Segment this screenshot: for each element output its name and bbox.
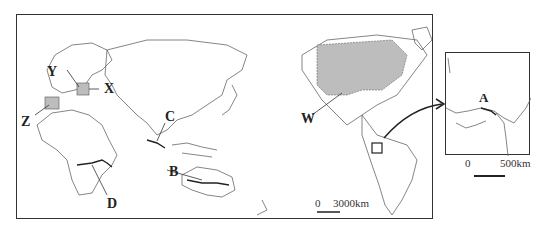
scale-zero: 0: [315, 198, 321, 209]
label-a: A: [479, 91, 488, 104]
scale-distance: 3000km: [333, 198, 369, 209]
world-map: Y X Z C D B W 0 3000km: [16, 14, 433, 219]
inset-map-outline: [446, 53, 531, 156]
label-b: B: [169, 165, 178, 179]
label-w: W: [301, 112, 315, 126]
world-map-outline: [17, 15, 434, 220]
label-d: D: [107, 197, 117, 211]
inset-scale-zero: 0: [465, 158, 471, 169]
label-c: C: [165, 110, 175, 124]
inset-map: A: [445, 52, 530, 155]
label-x: X: [104, 82, 114, 96]
inset-scale-distance: 500km: [500, 158, 531, 169]
inset-scale-bar: [474, 175, 505, 177]
label-z: Z: [21, 115, 30, 129]
label-y: Y: [47, 65, 57, 79]
